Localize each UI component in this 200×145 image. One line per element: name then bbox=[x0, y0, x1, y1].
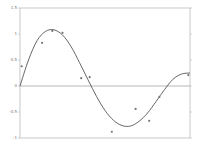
data-point bbox=[21, 65, 23, 67]
y-tick-label: -1 bbox=[13, 135, 17, 140]
y-tick-label: 0.5 bbox=[11, 57, 18, 62]
y-tick-label: -0.5 bbox=[9, 109, 17, 114]
data-point bbox=[41, 42, 43, 44]
y-tick-label: 1.5 bbox=[11, 5, 18, 10]
data-point bbox=[135, 108, 137, 110]
data-point bbox=[148, 120, 150, 122]
plot-frame bbox=[20, 8, 190, 138]
data-point bbox=[51, 30, 53, 32]
plot-border bbox=[20, 8, 190, 138]
chart-svg: 1.510.50-0.5-1 bbox=[0, 0, 200, 145]
y-tick-label: 0 bbox=[14, 83, 17, 88]
data-point bbox=[80, 77, 82, 79]
y-tick-label: 1 bbox=[14, 31, 17, 36]
chart: 1.510.50-0.5-1 bbox=[0, 0, 200, 145]
data-point bbox=[111, 131, 113, 133]
y-axis-ticks: 1.510.50-0.5-1 bbox=[9, 5, 192, 140]
data-points bbox=[21, 30, 190, 133]
data-point bbox=[158, 96, 160, 98]
data-point bbox=[89, 76, 91, 78]
fitted-curve bbox=[20, 30, 190, 127]
data-point bbox=[61, 32, 63, 34]
fit-line bbox=[20, 30, 190, 127]
data-point bbox=[187, 74, 189, 76]
